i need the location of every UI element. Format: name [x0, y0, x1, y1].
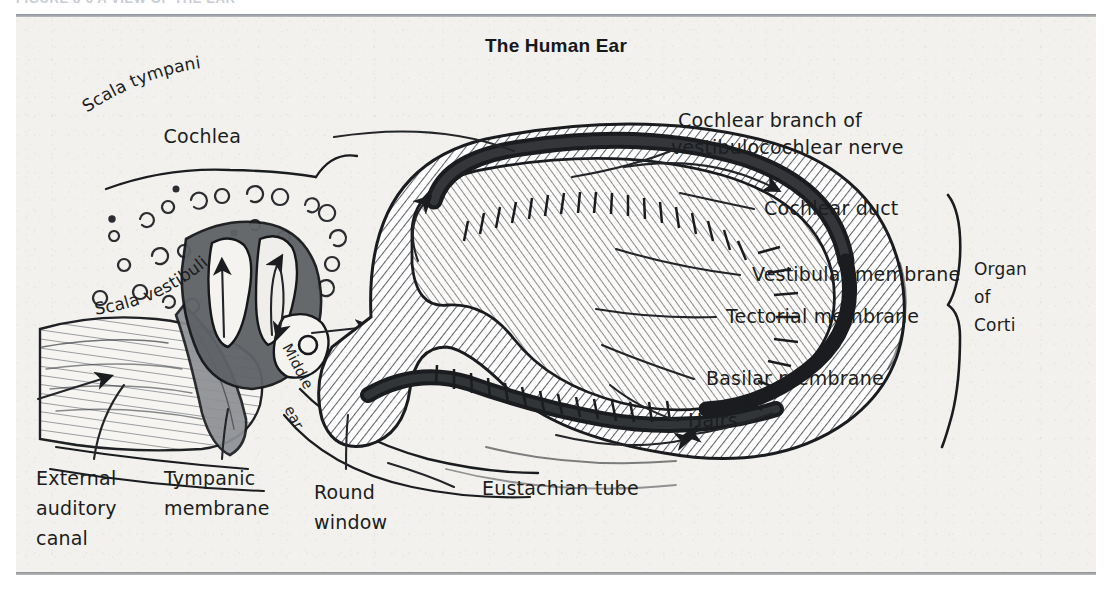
label-round-window-line1: Round [314, 481, 375, 503]
label-cochlear-duct: Cochlear duct [764, 197, 898, 219]
figure-caption: FIGURE 8-6 A VIEW OF THE EAR [16, 0, 236, 6]
label-cochlea: Cochlea [164, 125, 241, 147]
bottom-rule [16, 572, 1096, 575]
label-basilar-membrane: Basilar membrane [706, 367, 884, 389]
label-organ-of-corti-line2: of [974, 287, 992, 307]
label-tympanic-line1: Tympanic [163, 467, 255, 489]
label-cochlear-branch-line2: vestibulocochlear nerve [671, 136, 904, 158]
label-round-window-line2: window [314, 511, 387, 533]
ear-diagram: Cochlea Cochlear branch of vestibulococh… [16, 17, 1096, 572]
label-tympanic-line2: membrane [164, 497, 270, 519]
figure-plate: The Human Ear [16, 17, 1096, 572]
label-cochlear-branch-line1: Cochlear branch of [678, 109, 863, 131]
label-vestibular-membrane: Vestibular membrane [752, 263, 960, 285]
label-organ-of-corti-line3: Corti [974, 315, 1016, 335]
label-middle-ear-line2: ear [281, 403, 307, 432]
label-external-canal-line3: canal [36, 527, 88, 549]
label-hairs: Hairs [688, 409, 738, 431]
label-scala-tympani: Scala tympani [78, 52, 202, 116]
organ-of-corti-brace [942, 195, 960, 447]
label-eustachian-tube: Eustachian tube [482, 477, 639, 499]
label-external-canal-line1: External [36, 467, 116, 489]
label-organ-of-corti-line1: Organ [974, 259, 1027, 279]
label-tectorial-membrane: Tectorial membrane [725, 305, 919, 327]
label-external-canal-line2: auditory [36, 497, 117, 519]
